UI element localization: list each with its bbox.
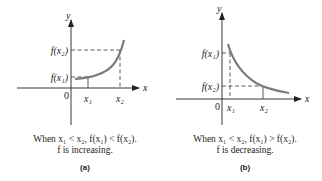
panel-a-caption-line1: When x₁ < x₂, f(x₁) < f(x₂). [10, 134, 160, 145]
panel-b-caption-line1: When x₁ < x₂, f(x₁) > f(x₂). [170, 134, 320, 145]
panel-b-x-tick-x2: x₂ [259, 102, 268, 113]
panel-b-caption: When x₁ < x₂, f(x₁) > f(x₂). f is decrea… [170, 134, 320, 156]
panel-a-caption: When x₁ < x₂, f(x₁) < f(x₂). f is increa… [10, 134, 160, 156]
panel-a-x-label: x [142, 82, 148, 93]
panel-b-tag: (b) [220, 163, 270, 172]
panel-a-origin-label: 0 [64, 90, 69, 101]
panel-b-x-tick-x1: x₁ [226, 102, 235, 113]
panel-a-increasing-curve [75, 40, 124, 79]
panel-b-y-tick-fx2: f(x₂) [202, 81, 220, 93]
panel-a-y-tick-fx1: f(x₁) [51, 72, 69, 84]
panel-a-y-label: y [65, 10, 71, 21]
panel-a-tag: (a) [60, 163, 110, 172]
panel-a-x-tick-x2: x₂ [115, 93, 124, 104]
panel-a-graph: y x 0 f(x₂) f(x₁) x₁ x₂ [17, 10, 148, 125]
panel-a-caption-line2: f is increasing. [10, 145, 160, 156]
panel-b-origin-label: 0 [215, 101, 220, 112]
panel-a-y-tick-fx2: f(x₂) [51, 45, 69, 57]
panel-b-y-tick-fx1: f(x₁) [202, 48, 220, 60]
panel-b-caption-line2: f is decreasing. [170, 145, 320, 156]
panel-b-graph: y x 0 f(x₁) f(x₂) x₁ x₂ [176, 3, 310, 125]
panel-b-x-label: x [304, 93, 310, 104]
panel-a-x-tick-x1: x₁ [83, 93, 92, 104]
panel-b-y-label: y [216, 3, 222, 14]
